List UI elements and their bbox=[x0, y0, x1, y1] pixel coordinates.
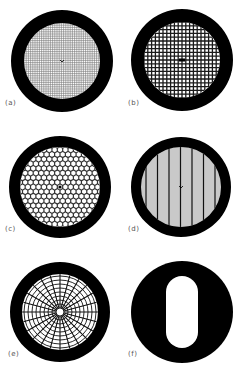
panel-label-f: (f) bbox=[128, 350, 137, 358]
slot-aperture-icon bbox=[0, 0, 244, 379]
